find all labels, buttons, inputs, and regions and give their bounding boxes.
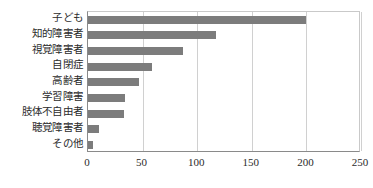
bar (88, 31, 216, 39)
category-label-4: 高齢者 (0, 75, 83, 87)
category-label-5: 学習障害 (0, 91, 83, 103)
category-label-8: その他 (0, 138, 83, 150)
category-label-2: 視覚障害者 (0, 44, 83, 56)
bar-row (88, 59, 361, 75)
bar (88, 47, 183, 55)
bar-row (88, 12, 361, 28)
bar-row (88, 122, 361, 138)
category-label-3: 自閉症 (0, 59, 83, 71)
bar-row (88, 28, 361, 44)
bar (88, 78, 139, 86)
bar (88, 94, 125, 102)
bar (88, 141, 93, 149)
x-tick-label-100: 100 (188, 155, 205, 169)
bars-layer (88, 12, 359, 151)
category-axis-labels: 子ども知的障害者視覚障害者自閉症高齢者学習障害肢体不自由者聴覚障害者その他 (0, 11, 83, 152)
bar (88, 16, 306, 24)
x-tick-label-50: 50 (136, 155, 147, 169)
x-tick-label-150: 150 (243, 155, 260, 169)
bar-row (88, 106, 361, 122)
category-label-1: 知的障害者 (0, 28, 83, 40)
bar (88, 110, 124, 118)
bar-row (88, 137, 361, 153)
value-axis-labels: 050100150200250 (0, 155, 373, 175)
x-tick-label-250: 250 (352, 155, 369, 169)
bar (88, 125, 99, 133)
bar-row (88, 75, 361, 91)
bar (88, 63, 152, 71)
x-tick-label-200: 200 (297, 155, 314, 169)
bar-row (88, 43, 361, 59)
x-tick-label-0: 0 (84, 155, 90, 169)
category-label-7: 聴覚障害者 (0, 122, 83, 134)
plot-area (87, 11, 360, 152)
bar-row (88, 90, 361, 106)
category-label-0: 子ども (0, 12, 83, 24)
gridline-250 (361, 12, 362, 151)
category-label-6: 肢体不自由者 (0, 106, 83, 118)
bar-chart-figure: 子ども知的障害者視覚障害者自閉症高齢者学習障害肢体不自由者聴覚障害者その他 05… (0, 0, 373, 188)
